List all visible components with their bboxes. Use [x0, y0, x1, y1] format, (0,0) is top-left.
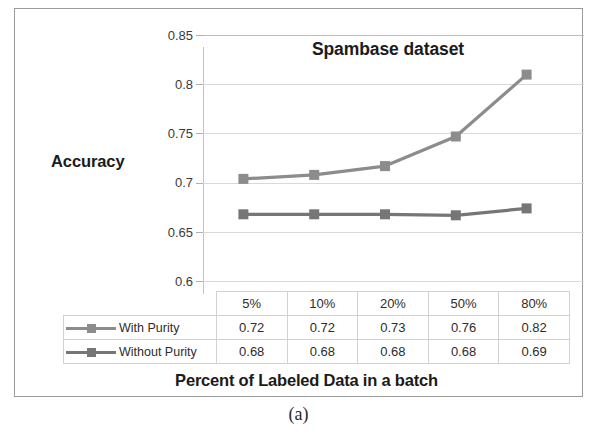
cell-with-purity-80pct: 0.82 — [499, 316, 570, 340]
data-point-marker — [451, 132, 461, 142]
data-point-marker — [451, 210, 461, 220]
plot-canvas — [203, 47, 584, 293]
series-layer — [203, 47, 584, 293]
chart-plot-area: Spambase dataset Accuracy 0.85 0.8 0.75 … — [15, 9, 582, 396]
table-row: Without Purity 0.68 0.68 0.68 0.68 0.69 — [64, 340, 570, 364]
y-tickmark-2 — [196, 133, 203, 134]
data-point-marker — [522, 203, 532, 213]
cell-without-purity-10pct: 0.68 — [287, 340, 358, 364]
y-tickmark-3 — [196, 183, 203, 184]
data-point-marker — [309, 170, 319, 180]
data-point-marker — [238, 209, 248, 219]
cell-without-purity-50pct: 0.68 — [428, 340, 499, 364]
legend-marker-without-purity — [66, 346, 116, 358]
figure-frame: Spambase dataset Accuracy 0.85 0.8 0.75 … — [14, 8, 583, 397]
cell-with-purity-20pct: 0.73 — [358, 316, 429, 340]
data-point-marker — [309, 209, 319, 219]
data-point-marker — [522, 70, 532, 80]
y-tick-label-2: 0.75 — [147, 127, 193, 140]
table-col-header-20pct: 20% — [358, 292, 429, 316]
data-point-marker — [380, 209, 390, 219]
table-header-row: 5% 10% 20% 50% 80% — [64, 292, 570, 316]
legend-marker-with-purity — [66, 322, 116, 334]
table-col-header-10pct: 10% — [287, 292, 358, 316]
series-with-purity — [238, 70, 531, 184]
cell-without-purity-20pct: 0.68 — [358, 340, 429, 364]
data-point-marker — [238, 174, 248, 184]
y-tick-label-1: 0.8 — [147, 78, 193, 91]
y-axis-title: Accuracy — [51, 152, 125, 171]
legend-item-without-purity: Without Purity — [64, 340, 217, 364]
table-col-header-50pct: 50% — [428, 292, 499, 316]
gridline-0.85 — [203, 35, 584, 36]
cell-with-purity-50pct: 0.76 — [428, 316, 499, 340]
cell-without-purity-80pct: 0.69 — [499, 340, 570, 364]
table-corner-cell — [64, 292, 217, 316]
legend-item-with-purity: With Purity — [64, 316, 217, 340]
cell-with-purity-10pct: 0.72 — [287, 316, 358, 340]
data-point-marker — [380, 161, 390, 171]
table-row: With Purity 0.72 0.72 0.73 0.76 0.82 — [64, 316, 570, 340]
y-tick-label-5: 0.6 — [147, 275, 193, 288]
y-tickmark-1 — [196, 84, 203, 85]
y-tick-label-0: 0.85 — [147, 29, 193, 42]
y-tickmark-4 — [196, 232, 203, 233]
cell-with-purity-5pct: 0.72 — [216, 316, 287, 340]
y-tickmark-5 — [196, 281, 203, 282]
x-axis-title: Percent of Labeled Data in a batch — [29, 371, 584, 390]
series-without-purity — [238, 203, 531, 220]
y-tickmark-0 — [196, 35, 203, 36]
figure-caption: (a) — [0, 404, 597, 425]
table-col-header-80pct: 80% — [499, 292, 570, 316]
chart-data-table: 5% 10% 20% 50% 80% With Purity 0.72 0.72 — [63, 291, 570, 364]
cell-without-purity-5pct: 0.68 — [216, 340, 287, 364]
y-tick-label-4: 0.65 — [147, 226, 193, 239]
legend-label-without-purity: Without Purity — [119, 345, 197, 359]
table-col-header-5pct: 5% — [216, 292, 287, 316]
y-tick-label-3: 0.7 — [147, 176, 193, 189]
legend-label-with-purity: With Purity — [119, 321, 179, 335]
